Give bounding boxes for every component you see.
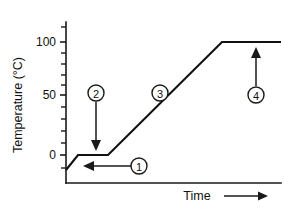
callout-1-label: 1 bbox=[136, 161, 142, 173]
callout-1-arrowhead bbox=[83, 161, 94, 171]
callout-2: 2 bbox=[88, 85, 104, 151]
y-axis-title: Temperature (°C) bbox=[11, 57, 25, 153]
callout-1: 1 bbox=[83, 158, 147, 174]
callout-4-label: 4 bbox=[253, 90, 259, 102]
callout-4-arrowhead bbox=[251, 47, 261, 58]
heating-curve-chart: 100 50 0 Temperature (°C) Time 1 2 bbox=[0, 0, 284, 208]
callout-4: 4 bbox=[248, 47, 264, 103]
heating-curve-figure: 100 50 0 Temperature (°C) Time 1 2 bbox=[0, 0, 284, 208]
y-axis-major-ticks bbox=[60, 42, 66, 155]
y-tick-label-100: 100 bbox=[36, 35, 56, 49]
y-tick-label-0: 0 bbox=[49, 148, 56, 162]
callout-2-label: 2 bbox=[93, 88, 99, 100]
x-axis-title: Time bbox=[183, 189, 210, 203]
callout-3: 3 bbox=[152, 85, 168, 101]
callout-3-label: 3 bbox=[157, 88, 163, 100]
y-tick-label-50: 50 bbox=[43, 88, 57, 102]
x-axis-arrow-icon bbox=[224, 192, 268, 201]
heating-curve-line bbox=[66, 42, 281, 170]
callout-2-arrowhead bbox=[91, 140, 101, 151]
